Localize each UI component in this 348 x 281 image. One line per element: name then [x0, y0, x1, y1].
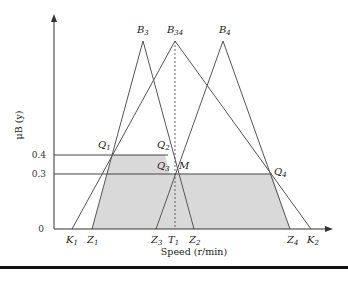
label-Q4: Q4	[274, 166, 287, 179]
label-Q2: Q2	[157, 139, 170, 152]
label-Z3: Z3	[150, 234, 163, 247]
y-tick-0.4: 0.4	[32, 150, 47, 160]
label-B4: B4	[218, 24, 231, 37]
label-Q1: Q1	[98, 139, 111, 152]
label-Z4: Z4	[286, 234, 298, 247]
y-tick-0: 0	[38, 224, 44, 234]
label-K1: K1	[65, 234, 78, 247]
y-axis-arrow-icon	[51, 14, 57, 22]
y-axis-title: μB (y)	[13, 111, 24, 140]
label-Z1: Z1	[86, 234, 98, 247]
y-tick-0.3: 0.3	[32, 169, 47, 179]
label-B3: B3	[136, 24, 149, 37]
bottom-rule	[0, 266, 348, 269]
membership-diagram: 0 0.3 0.4 μB (y) Speed (r/min) B3 B34 B4…	[0, 0, 348, 281]
label-M: M	[178, 160, 190, 171]
x-axis-arrow-icon	[325, 226, 333, 232]
x-axis-title: Speed (r/min)	[161, 246, 227, 257]
label-B34: B34	[166, 24, 183, 37]
label-K2: K2	[306, 234, 319, 247]
